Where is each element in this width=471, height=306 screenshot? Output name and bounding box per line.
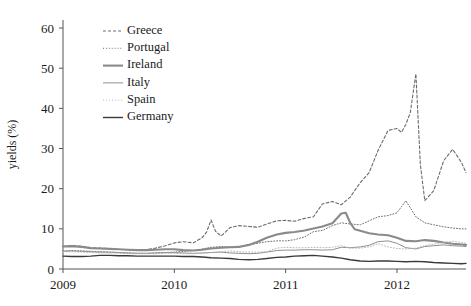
chart-canvas: 0102030405060 2009201020112012 yields (%… bbox=[0, 0, 471, 306]
y-tick-label: 40 bbox=[41, 101, 54, 116]
series-line-germany bbox=[63, 255, 466, 263]
legend-label-germany: Germany bbox=[127, 109, 174, 123]
y-tick-label: 60 bbox=[41, 21, 54, 36]
y-tick-label: 30 bbox=[41, 141, 54, 156]
y-axis-tick-group: 0102030405060 bbox=[41, 21, 63, 277]
x-tick-label: 2011 bbox=[273, 277, 299, 292]
data-series-group bbox=[63, 74, 466, 264]
series-line-portugal bbox=[63, 201, 466, 254]
series-line-greece bbox=[63, 74, 466, 250]
legend-label-portugal: Portugal bbox=[127, 40, 170, 54]
yields-line-chart: 0102030405060 2009201020112012 yields (%… bbox=[0, 0, 471, 306]
x-axis-tick-group: 2009201020112012 bbox=[50, 269, 410, 292]
x-tick-label: 2009 bbox=[50, 277, 76, 292]
x-tick-label: 2010 bbox=[161, 277, 187, 292]
legend-label-italy: Italy bbox=[127, 75, 151, 89]
x-tick-label: 2012 bbox=[384, 277, 410, 292]
y-tick-label: 50 bbox=[41, 61, 54, 76]
y-axis-title: yields (%) bbox=[5, 120, 19, 170]
legend-label-ireland: Ireland bbox=[127, 57, 163, 71]
series-line-ireland bbox=[63, 213, 466, 251]
y-tick-label: 10 bbox=[41, 221, 54, 236]
legend-label-greece: Greece bbox=[127, 23, 163, 37]
chart-legend: GreecePortugalIrelandItalySpainGermany bbox=[103, 23, 174, 124]
y-tick-label: 20 bbox=[41, 181, 54, 196]
y-tick-label: 0 bbox=[48, 262, 55, 277]
legend-label-spain: Spain bbox=[127, 92, 156, 106]
